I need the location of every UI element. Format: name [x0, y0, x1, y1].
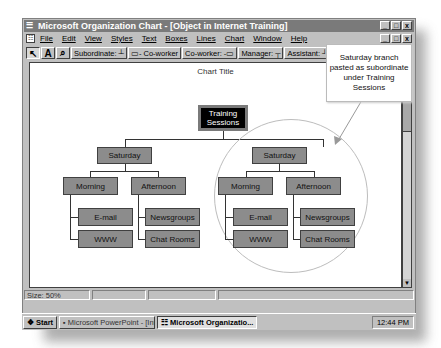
- callout-annotation: Saturday branch pasted as subordinate un…: [326, 44, 412, 102]
- taskbar-org-chart[interactable]: ☷ Microsoft Organizatio...: [157, 316, 257, 329]
- taskbar-powerpoint[interactable]: ▪ Microsoft PowerPoint - [Int...: [59, 316, 155, 329]
- taskbar: ❖ Start ▪ Microsoft PowerPoint - [Int...…: [22, 313, 416, 330]
- start-button[interactable]: ❖ Start: [23, 316, 57, 329]
- start-label: Start: [36, 318, 53, 327]
- powerpoint-icon: ▪: [63, 318, 66, 327]
- task-label: Microsoft PowerPoint - [Int...: [68, 318, 155, 327]
- org-chart-icon: ☷: [161, 318, 168, 327]
- clock: 12:44 PM: [372, 316, 414, 329]
- windows-logo-icon: ❖: [27, 318, 34, 327]
- task-label: Microsoft Organizatio...: [170, 318, 253, 327]
- callout-text: Saturday branch pasted as subordinate un…: [327, 53, 411, 93]
